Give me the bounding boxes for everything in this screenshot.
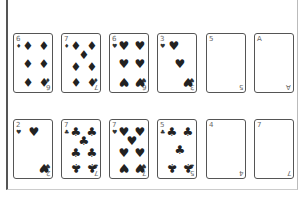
- hearts-icon: ♥: [118, 76, 130, 88]
- hearts-icon: ♥: [38, 162, 50, 174]
- diamonds-icon: ♦: [64, 43, 69, 49]
- diamonds-icon: ♦: [38, 40, 50, 52]
- playing-card[interactable]: 66♦♦♦♦♦♦♦♦: [13, 33, 53, 93]
- clubs-icon: ♣: [86, 147, 98, 159]
- clubs-icon: ♣: [64, 129, 69, 135]
- hearts-icon: ♥: [112, 129, 117, 135]
- diamonds-icon: ♦: [22, 40, 34, 52]
- hearts-icon: ♥: [28, 126, 40, 138]
- clubs-icon: ♣: [70, 147, 82, 159]
- clubs-icon: ♣: [160, 129, 165, 135]
- diamonds-icon: ♦: [22, 58, 34, 70]
- playing-card[interactable]: 33♥♥♥♥♥: [157, 33, 197, 93]
- card-rank: 5: [209, 36, 213, 43]
- hearts-icon: ♥: [16, 129, 21, 135]
- playing-card[interactable]: 77♣♣♣♣♣♣♣♣♣: [61, 119, 101, 179]
- card-rank: 4: [239, 169, 243, 176]
- playing-card[interactable]: 77♦♦♦♦♦♦♦♦♦: [61, 33, 101, 93]
- hearts-icon: ♥: [168, 40, 180, 52]
- diamonds-icon: ♦: [16, 43, 21, 49]
- card-rank: A: [257, 36, 262, 43]
- hearts-icon: ♥: [118, 58, 130, 70]
- playing-card[interactable]: 55: [206, 33, 246, 93]
- hearts-icon: ♥: [118, 162, 130, 174]
- clubs-icon: ♣: [174, 144, 186, 156]
- hearts-icon: ♥: [182, 76, 194, 88]
- card-rank: 7: [257, 122, 261, 129]
- hearts-icon: ♥: [174, 58, 186, 70]
- hearts-icon: ♥: [118, 40, 130, 52]
- card-rank: 7: [287, 169, 291, 176]
- hearts-icon: ♥: [160, 43, 165, 49]
- playing-card[interactable]: 22♥♥♥♥: [13, 119, 53, 179]
- playing-card[interactable]: AA: [254, 33, 294, 93]
- diamonds-icon: ♦: [38, 58, 50, 70]
- clubs-icon: ♣: [166, 126, 178, 138]
- playing-card[interactable]: 55♣♣♣♣♣♣♣: [157, 119, 197, 179]
- diamonds-icon: ♦: [70, 76, 82, 88]
- playing-card[interactable]: 77♥♥♥♥♥♥♥♥♥: [109, 119, 149, 179]
- diamonds-icon: ♦: [38, 76, 50, 88]
- hearts-icon: ♥: [112, 43, 117, 49]
- hearts-icon: ♥: [134, 40, 146, 52]
- playing-card[interactable]: 44: [206, 119, 246, 179]
- hearts-icon: ♥: [134, 58, 146, 70]
- playing-card[interactable]: 66♥♥♥♥♥♥♥♥: [109, 33, 149, 93]
- diamonds-icon: ♦: [86, 61, 98, 73]
- hearts-icon: ♥: [134, 162, 146, 174]
- card-rank: A: [286, 83, 291, 90]
- hearts-icon: ♥: [118, 147, 130, 159]
- hearts-icon: ♥: [134, 76, 146, 88]
- hearts-icon: ♥: [134, 147, 146, 159]
- clubs-icon: ♣: [166, 162, 178, 174]
- diamonds-icon: ♦: [86, 76, 98, 88]
- card-rank: 5: [239, 83, 243, 90]
- playing-card[interactable]: 77: [254, 119, 294, 179]
- diamonds-icon: ♦: [22, 76, 34, 88]
- clubs-icon: ♣: [70, 162, 82, 174]
- clubs-icon: ♣: [86, 162, 98, 174]
- clubs-icon: ♣: [182, 126, 194, 138]
- card-rank: 4: [209, 122, 213, 129]
- clubs-icon: ♣: [182, 162, 194, 174]
- diamonds-icon: ♦: [70, 61, 82, 73]
